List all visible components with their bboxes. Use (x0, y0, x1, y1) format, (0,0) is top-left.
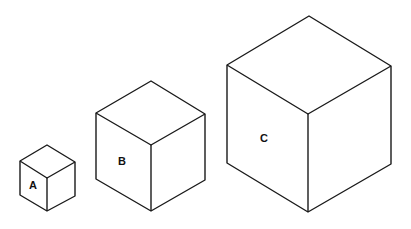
cube-c-label: C (260, 132, 268, 144)
cube-top-edges (227, 65, 391, 114)
cube-a (20, 145, 75, 211)
cube-b-label: B (118, 155, 126, 167)
cube-top-edges (96, 113, 205, 145)
cube-b (96, 81, 205, 211)
cubes-diagram: A B C (0, 0, 411, 229)
cube-a-label: A (29, 179, 37, 191)
cube-c (227, 16, 391, 212)
cubes-drawing (0, 0, 411, 229)
cube-top-edges (20, 161, 75, 178)
